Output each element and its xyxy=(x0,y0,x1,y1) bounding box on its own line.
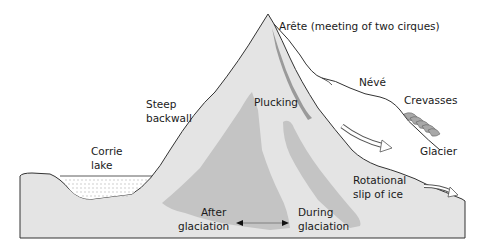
after-glaciation-label-1: After xyxy=(201,206,227,218)
plucking-label: Plucking xyxy=(254,96,298,108)
rotational-slip-label-2: slip of ice xyxy=(353,188,403,200)
after-glaciation-label-2: glaciation xyxy=(178,220,229,232)
crevasses-icon xyxy=(404,113,440,137)
corrie-lake-label-1: Corrie xyxy=(91,145,123,157)
steep-backwall-label-2: backwall xyxy=(146,112,192,124)
rotational-slip-label-1: Rotational xyxy=(353,174,406,186)
neve-label: Névé xyxy=(359,76,386,88)
steep-backwall-label-1: Steep xyxy=(146,98,177,110)
during-glaciation-label-2: glaciation xyxy=(298,220,349,232)
arete-label: Arête (meeting of two cirques) xyxy=(279,20,440,32)
crevasses-label: Crevasses xyxy=(404,94,457,106)
corrie-lake-label-2: lake xyxy=(91,159,113,171)
glacier-label: Glacier xyxy=(420,145,458,157)
corrie-diagram: Arête (meeting of two cirques) Névé Crev… xyxy=(0,0,488,251)
during-glaciation-label-1: During xyxy=(298,206,333,218)
